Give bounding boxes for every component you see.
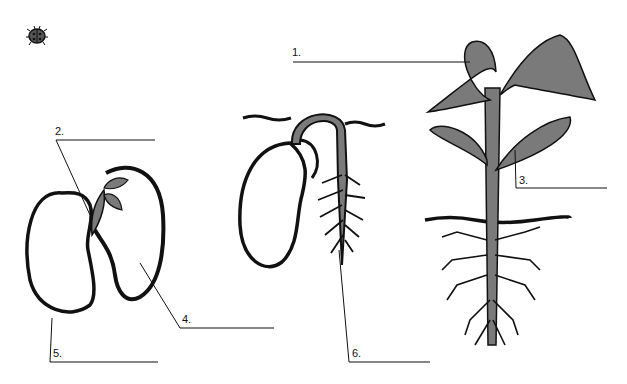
label-6: 6. bbox=[352, 348, 361, 359]
ladybug-icon bbox=[26, 26, 48, 45]
label-5: 5. bbox=[53, 348, 62, 359]
open-seed bbox=[27, 140, 274, 362]
label-2: 2. bbox=[55, 126, 64, 137]
label-3: 3. bbox=[519, 175, 528, 186]
germination-diagram bbox=[0, 0, 627, 384]
label-1: 1. bbox=[292, 47, 301, 58]
germinating-seed bbox=[240, 114, 430, 362]
label-4: 4. bbox=[182, 314, 191, 325]
